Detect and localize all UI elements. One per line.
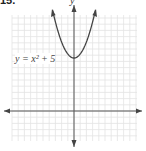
x-axis-left-arrow-icon: [4, 109, 10, 114]
y-axis-up-arrow-icon: [72, 5, 77, 12]
y-axis-down-arrow-icon: [72, 140, 77, 147]
coordinate-plane: [0, 0, 146, 151]
x-axis-right-arrow-icon: [136, 109, 142, 114]
equation-label: y = x² + 5: [15, 53, 55, 64]
